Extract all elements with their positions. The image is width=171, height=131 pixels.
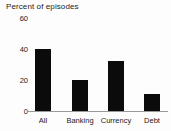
bar-debt bbox=[144, 94, 160, 111]
bar-all bbox=[35, 49, 51, 111]
bar-banking bbox=[72, 80, 88, 111]
x-tick-label-banking: Banking bbox=[66, 116, 93, 125]
bar-chart: Percent of episodes 60 40 20 0 All Banki… bbox=[0, 0, 171, 131]
x-tick-label-all: All bbox=[39, 116, 47, 125]
x-axis-line bbox=[28, 111, 168, 112]
x-tick-label-currency: Currency bbox=[101, 116, 131, 125]
bar-currency bbox=[108, 61, 124, 111]
plot-area: All Banking Currency Debt bbox=[0, 0, 171, 131]
x-tick-label-debt: Debt bbox=[144, 116, 160, 125]
